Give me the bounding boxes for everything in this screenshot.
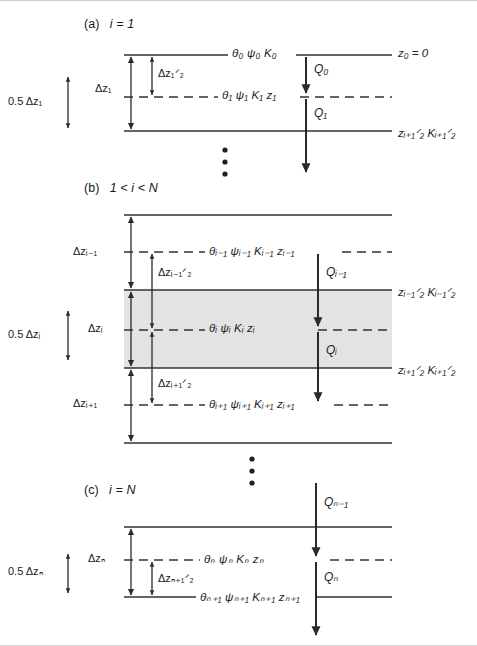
panel-c-heading-text: i = N: [109, 483, 136, 497]
panel-b-heading-text: 1 < i < N: [110, 181, 158, 195]
panel-c-dz-half-outer: 0.5 Δzₙ: [8, 565, 43, 578]
panel-c-dimension-arrows: [68, 529, 152, 595]
panel-c-row-2-center: θₙ₊₁ ψₙ₊₁ Kₙ₊₁ zₙ₊₁: [200, 590, 300, 604]
panel-b-row-2-right: zᵢ₋₁ᐟ₂ Kᵢ₋₁ᐟ₂: [398, 285, 456, 299]
panel-a-heading-prefix: (a): [84, 17, 100, 31]
panel-c-dz-half-lower: Δzₙ₊₁ᐟ₂: [158, 572, 194, 585]
panel-a-dz-half-upper: Δz₁ᐟ₂: [158, 67, 184, 80]
panel-a-dz-half-outer: 0.5 Δz₁: [8, 95, 42, 107]
panel-c-heading-prefix: (c): [84, 483, 99, 497]
panel-b-dz-half-lower: Δzᵢ₊₁ᐟ₂: [158, 377, 192, 390]
panel-b-row-5-center: θᵢ₊₁ ψᵢ₊₁ Kᵢ₊₁ zᵢ₊₁: [209, 397, 295, 411]
control-volume-shading: [124, 290, 392, 368]
panel-a-row-2-right: zᵢ₊₁ᐟ₂ Kᵢ₊₁ᐟ₂: [398, 126, 456, 140]
panel-c-dz-full: Δzₙ: [88, 552, 105, 565]
panel-c-heading: (c) i = N: [84, 483, 136, 497]
panel-b-flux-0: Qᵢ₋₁: [326, 265, 347, 279]
panel-a-heading: (a) i = 1: [84, 17, 134, 31]
panel-c-flux-0: Qₙ₋₁: [324, 495, 348, 509]
panel-b-dz-cur: Δzᵢ: [88, 322, 103, 334]
panel-b-row-1-center: θᵢ₋₁ ψᵢ₋₁ Kᵢ₋₁ zᵢ₋₁: [209, 244, 295, 258]
panel-a-flux-0: Q₀: [314, 62, 328, 76]
panel-b-dz-next: Δzᵢ₊₁: [73, 397, 97, 410]
panel-b-heading-prefix: (b): [84, 181, 100, 195]
ellipsis-b-c: [249, 456, 254, 485]
panel-a-dz-full: Δz₁: [95, 82, 112, 94]
panel-a-row-0-right: z₀ = 0: [398, 47, 428, 59]
ellipsis-a-b: [222, 147, 227, 176]
panel-c-flux-1: Qₙ: [324, 570, 338, 584]
panel-a-row-1-center: θ₁ ψ₁ K₁ z₁: [222, 89, 276, 101]
panel-b-dz-prev: Δzᵢ₋₁: [73, 245, 97, 258]
panel-a-row-0-center: θ₀ ψ₀ K₀: [232, 47, 277, 59]
panel-c-row-1-center: θₙ ψₙ Kₙ zₙ: [204, 552, 264, 566]
panel-a-flux-1: Q₁: [314, 106, 327, 120]
panel-a-heading-text: i = 1: [110, 17, 134, 31]
panel-b-dz-half-upper: Δzᵢ₋₁ᐟ₂: [158, 266, 192, 279]
panel-b-row-3-center: θᵢ ψᵢ Kᵢ zᵢ: [209, 322, 255, 334]
panel-b-flux-1: Qᵢ: [326, 343, 337, 357]
panel-b-row-4-right: zᵢ₊₁ᐟ₂ Kᵢ₊₁ᐟ₂: [398, 363, 456, 377]
panel-b-heading: (b) 1 < i < N: [84, 181, 158, 195]
panel-b-dz-half-outer: 0.5 Δzᵢ: [8, 328, 40, 340]
